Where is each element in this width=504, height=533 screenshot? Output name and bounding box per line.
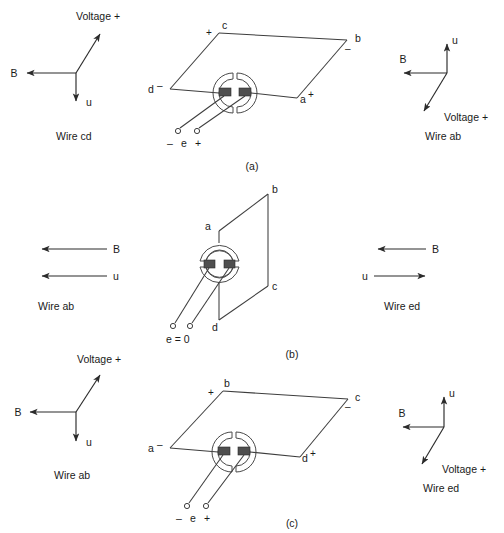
loop-corner-c: c xyxy=(355,391,360,403)
loop-corner-c: c xyxy=(222,19,227,31)
vector-voltage-label: Voltage + xyxy=(444,111,488,123)
triad-left-caption: Wire cd xyxy=(56,130,92,142)
commutator-segment-top xyxy=(200,245,239,261)
loop-corner-d: d xyxy=(148,83,154,95)
vector-voltage-label: Voltage + xyxy=(77,353,121,365)
loop-edge-a-shaft xyxy=(251,93,297,98)
loop-corner-b: b xyxy=(355,32,361,44)
panel-a: B u Voltage + Wire cd c + b – d – a + xyxy=(0,0,504,180)
loop-edge-cd xyxy=(219,286,268,320)
vector-u-label: u xyxy=(86,436,92,448)
commutator-c: – e + xyxy=(176,432,256,524)
lead-positive xyxy=(208,455,244,503)
panel-c: B u Voltage + Wire ab b + c – a – d + xyxy=(0,365,504,533)
vector-voltage-arrow xyxy=(422,427,444,464)
loop-corner-b: b xyxy=(224,377,230,389)
terminal-plus-label: + xyxy=(195,137,201,149)
lead-positive xyxy=(199,96,245,128)
emf-label: e = 0 xyxy=(166,333,190,345)
vector-u-label: u xyxy=(362,270,368,282)
terminal-minus-label: – xyxy=(176,512,182,524)
vector-u-label: u xyxy=(449,387,455,399)
triad-right-caption: Wire ab xyxy=(425,130,461,142)
loop-corner-a-sign: + xyxy=(308,89,314,100)
emf-label: e xyxy=(190,512,196,524)
loop-corner-b-sign: + xyxy=(208,387,214,398)
triad-left-b: B u Wire ab xyxy=(38,243,120,312)
lead-left xyxy=(175,268,209,323)
commutator-a: – e + xyxy=(167,73,257,149)
brush-right xyxy=(224,260,235,268)
brush-right xyxy=(239,88,251,96)
loop-edge-bc xyxy=(223,391,348,399)
terminal-positive xyxy=(194,128,199,133)
vector-b-label: B xyxy=(10,67,17,79)
loop-corner-b: b xyxy=(272,183,278,195)
brush-left xyxy=(219,88,231,96)
loop-edge-shaft-d xyxy=(170,89,219,93)
triad-left-c: B u Voltage + Wire ab xyxy=(14,353,121,481)
loop-corner-a-sign: – xyxy=(157,439,163,450)
loop-corner-d-sign: – xyxy=(157,80,163,91)
loop-edge-ab xyxy=(170,391,223,448)
vector-b-label: B xyxy=(398,407,405,419)
loop-edge-cb xyxy=(219,33,347,40)
panel-b: B u Wire ab b a c d xyxy=(0,180,504,365)
vector-u-label: u xyxy=(113,270,119,282)
loop-b: b a c d xyxy=(205,183,278,333)
vector-b-label: B xyxy=(399,53,406,65)
triad-left-caption: Wire ab xyxy=(38,300,74,312)
lead-negative xyxy=(180,96,224,128)
brush-left xyxy=(218,447,230,455)
triad-left-caption: Wire ab xyxy=(54,469,90,481)
loop-corner-c-sign: – xyxy=(345,401,351,412)
loop-edge-dc xyxy=(170,33,219,89)
loop-corner-d: d xyxy=(302,452,308,464)
commutator-b: e = 0 xyxy=(166,245,239,345)
panel-caption-a: (a) xyxy=(246,160,259,172)
loop-edge-ab xyxy=(219,194,268,231)
loop-corner-a: a xyxy=(148,442,154,454)
vector-b-label: B xyxy=(14,406,21,418)
triad-right-a: B u Voltage + Wire ab xyxy=(399,34,488,142)
lead-negative xyxy=(189,455,223,503)
loop-edge-shaft-a xyxy=(170,448,218,452)
terminal-positive xyxy=(203,503,208,508)
vector-u-label: u xyxy=(86,96,92,108)
loop-corner-c: c xyxy=(272,280,277,292)
terminal-plus-label: + xyxy=(204,512,210,524)
loop-edge-cd xyxy=(300,399,348,457)
loop-corner-c-sign: + xyxy=(206,27,212,38)
loop-corner-a: a xyxy=(205,220,211,232)
vector-voltage-arrow xyxy=(76,375,100,412)
loop-c: b + c – a – d + xyxy=(148,377,360,464)
loop-edge-d-shaft xyxy=(250,452,300,457)
loop-corner-d-sign: + xyxy=(310,448,316,459)
terminal-left xyxy=(170,323,175,328)
triad-right-c: B u Voltage + Wire ed xyxy=(398,387,486,494)
vector-b-label: B xyxy=(432,243,439,255)
vector-voltage-arrow xyxy=(424,73,447,111)
triad-right-caption: Wire ed xyxy=(423,482,459,494)
lead-right xyxy=(192,268,229,323)
loop-corner-d: d xyxy=(212,321,218,333)
loop-a: c + b – d – a + xyxy=(148,19,361,105)
commutator-segment-bottom xyxy=(200,267,239,283)
loop-edge-ba xyxy=(297,40,347,98)
vector-u-label: u xyxy=(452,34,458,46)
brush-right xyxy=(238,447,250,455)
terminal-negative xyxy=(184,503,189,508)
panel-caption-c: (c) xyxy=(286,517,298,529)
triad-right-caption: Wire ed xyxy=(384,300,420,312)
vector-b-label: B xyxy=(113,243,120,255)
brush-left xyxy=(204,260,215,268)
loop-corner-a: a xyxy=(300,93,306,105)
triad-left-a: B u Voltage + Wire cd xyxy=(10,10,120,142)
terminal-minus-label: – xyxy=(167,137,173,149)
panel-caption-b: (b) xyxy=(286,348,299,360)
triad-right-b: B u Wire ed xyxy=(362,243,439,312)
vector-voltage-label: Voltage + xyxy=(76,10,120,22)
emf-label: e xyxy=(181,137,187,149)
vector-voltage-label: Voltage + xyxy=(442,463,486,475)
terminal-right xyxy=(187,323,192,328)
